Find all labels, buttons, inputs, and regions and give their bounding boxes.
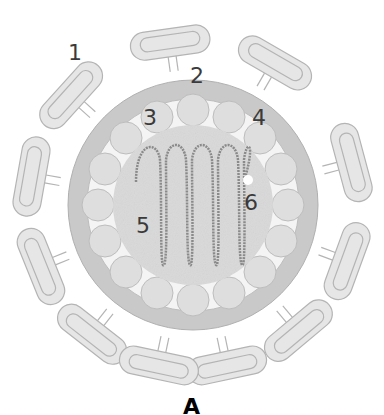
figure-caption: A [183,396,200,415]
label-6: 6 [244,192,258,214]
polymerase-dot [243,175,253,185]
label-4: 4 [252,107,266,129]
label-3: 3 [143,107,157,129]
label-2: 2 [190,65,204,87]
label-1: 1 [68,42,82,64]
label-5: 5 [136,215,150,237]
